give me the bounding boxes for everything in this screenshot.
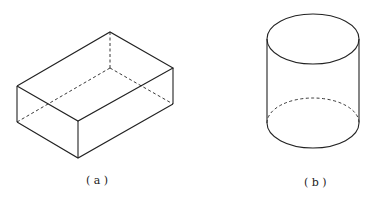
figure-a-label: ( a )	[86, 174, 108, 187]
cylinder	[267, 14, 359, 148]
figure-b-label: ( b )	[304, 176, 327, 189]
cuboid	[17, 32, 173, 158]
diagram-svg	[0, 0, 371, 197]
figure-canvas: ( a ) ( b )	[0, 0, 371, 197]
